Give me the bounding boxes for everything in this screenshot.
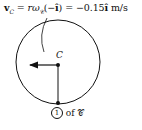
center-point — [56, 63, 60, 67]
contact-point — [56, 101, 60, 105]
circled-number: 1 — [51, 107, 63, 119]
center-label: C — [56, 50, 63, 60]
point-label: 1 of 𝒞 — [51, 107, 84, 119]
